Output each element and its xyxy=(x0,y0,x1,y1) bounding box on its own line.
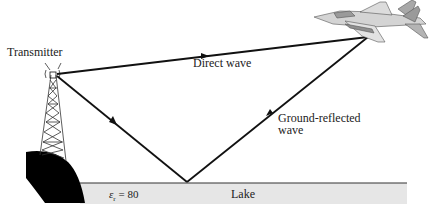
transmitter-label: Transmitter xyxy=(7,46,63,59)
incident-wave-path xyxy=(57,76,187,182)
lake-label: Lake xyxy=(231,188,255,201)
aircraft-icon xyxy=(314,0,428,42)
permittivity-value: = 80 xyxy=(116,188,139,200)
incident-wave-arrow-icon xyxy=(109,116,117,125)
transmitter-tower-icon xyxy=(40,63,66,161)
permittivity-label: εr = 80 xyxy=(109,188,138,206)
ground-reflected-label-line2: wave xyxy=(278,124,303,137)
direct-wave-label: Direct wave xyxy=(193,57,251,70)
hill xyxy=(26,151,85,203)
diagram-canvas xyxy=(0,0,436,217)
